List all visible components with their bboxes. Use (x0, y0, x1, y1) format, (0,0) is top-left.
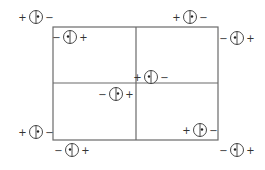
polarized-component: +− (133, 71, 168, 84)
polarity-sign-right: + (125, 89, 133, 100)
polarity-sign-right: + (246, 145, 254, 156)
frame (53, 27, 218, 140)
polarity-sign-left: + (133, 72, 141, 83)
polarity-sign-left: − (98, 89, 106, 100)
polarity-sign-right: − (45, 12, 53, 23)
polarity-sign-right: − (160, 72, 168, 83)
polarity-sign-left: + (18, 127, 26, 138)
component-dot-icon (191, 15, 193, 17)
wiring-diagram: +−−++−−++−−++−−++−−+ (0, 0, 265, 170)
polarized-component: −+ (98, 88, 133, 101)
polarity-sign-right: + (79, 32, 87, 43)
component-dot-icon (69, 148, 71, 150)
polarized-component: +− (18, 126, 53, 139)
polarized-component: +− (18, 11, 53, 24)
polarized-component: −+ (219, 144, 254, 157)
polarity-sign-left: + (18, 12, 26, 23)
component-dot-icon (148, 75, 150, 77)
polarity-sign-right: − (209, 125, 217, 136)
polarity-sign-right: − (45, 127, 53, 138)
component-dot-icon (37, 130, 39, 132)
polarity-sign-left: − (52, 32, 60, 43)
polarity-sign-left: + (172, 12, 180, 23)
polarity-sign-left: − (219, 33, 227, 44)
component-dot-icon (234, 148, 236, 150)
polarity-sign-left: − (54, 145, 62, 156)
polarity-sign-left: − (219, 145, 227, 156)
polarity-sign-right: + (81, 145, 89, 156)
polarized-component: −+ (52, 31, 87, 44)
polarized-component: −+ (219, 32, 254, 45)
polarized-component: −+ (54, 144, 89, 157)
component-dot-icon (67, 35, 69, 37)
polarity-sign-right: − (199, 12, 207, 23)
polarized-component: +− (182, 124, 217, 137)
polarity-sign-left: + (182, 125, 190, 136)
polarity-sign-right: + (246, 33, 254, 44)
polarized-component: +− (172, 11, 207, 24)
component-dot-icon (201, 128, 203, 130)
component-dot-icon (234, 36, 236, 38)
component-dot-icon (37, 15, 39, 17)
component-dot-icon (117, 92, 119, 94)
